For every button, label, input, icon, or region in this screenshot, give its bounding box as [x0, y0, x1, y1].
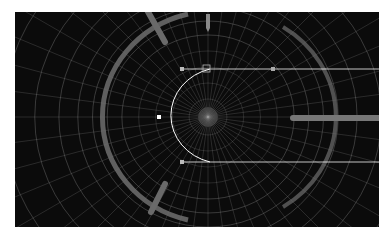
top-pointer	[206, 14, 210, 32]
grid-spoke	[208, 12, 379, 117]
curve-control-point-top[interactable]	[180, 67, 184, 71]
grid-spoke	[208, 12, 379, 117]
grid-spoke	[208, 12, 379, 117]
grid-spoke	[208, 12, 379, 117]
grid-spoke	[208, 12, 379, 117]
grid-spoke	[208, 117, 312, 227]
grid-spoke	[15, 117, 208, 227]
grid-spoke	[55, 12, 208, 117]
grid-spoke	[208, 12, 379, 117]
viewport-scene[interactable]	[15, 12, 379, 227]
vertical-side-label	[1, 2, 9, 20]
3d-viewport[interactable]	[15, 12, 379, 227]
grid-spoke	[156, 12, 208, 117]
grid-spoke	[208, 117, 379, 221]
grid-spoke	[15, 117, 208, 221]
diagonal-strut-top-left	[147, 12, 165, 42]
grid-spoke	[208, 13, 379, 117]
grid-spoke	[208, 12, 260, 117]
grid-spoke	[15, 13, 208, 117]
curve-handle-top[interactable]	[271, 67, 275, 71]
curve-control-point-left[interactable]	[157, 115, 161, 119]
center-glow	[198, 107, 218, 127]
curve-control-point-bottom[interactable]	[180, 160, 184, 164]
struts	[147, 12, 379, 212]
